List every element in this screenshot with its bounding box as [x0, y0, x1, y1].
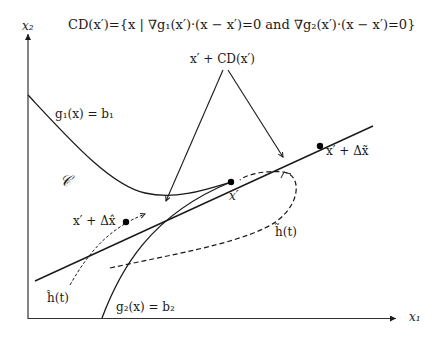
tangent-line [35, 126, 373, 281]
h-hat-label: ĥ(t) [47, 292, 69, 304]
g2-label: g₂(x) = b₂ [116, 301, 175, 313]
x-tilde-label: x′ + Δx̃ [326, 145, 369, 157]
g1-label: g₁(x) = b₁ [55, 108, 114, 120]
y-axis-label: x₂ [22, 20, 34, 32]
x-prime-label: x′ [229, 190, 239, 202]
g2-curve [102, 182, 231, 318]
h-tilde-label: h̃(t) [275, 226, 297, 238]
cd-arrow-right [228, 70, 283, 157]
h-tilde-arrowhead [281, 172, 291, 178]
cd-arrow-left [166, 70, 223, 201]
x-hat-label: x′ + Δx̂ [73, 215, 116, 227]
cd-definition-title: CD(x′)={x | ∇g₁(x′)·(x − x′)=0 and ∇g₂(x… [68, 18, 415, 31]
point-x-tilde [317, 143, 323, 149]
point-x-prime [228, 179, 234, 185]
x-axis-label: x₁ [409, 311, 421, 323]
point-x-hat [123, 219, 129, 225]
h-tilde-curve [110, 172, 296, 268]
region-c-label: 𝒞 [60, 174, 71, 189]
cd-set-label: x′ + CD(x′) [190, 53, 255, 65]
